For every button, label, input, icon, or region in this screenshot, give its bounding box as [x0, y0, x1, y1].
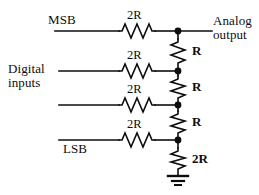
resistor-2r-lsb [119, 133, 155, 147]
resistor-2r-ground-leg [171, 148, 185, 176]
resistor-2r-bit2 [119, 64, 155, 78]
series-resistor-label-bit3: 2R [127, 83, 142, 97]
lsb-label: LSB [63, 142, 87, 156]
node-dot-4 [175, 137, 182, 144]
ladder-resistor-label-3: R [192, 115, 202, 129]
series-resistor-label-bit2: 2R [127, 49, 142, 63]
msb-label: MSB [48, 13, 76, 27]
series-resistor-label-lsb: 2R [127, 118, 142, 132]
series-resistor-label-msb: 2R [127, 9, 142, 23]
digital-inputs-label-line2: inputs [8, 76, 40, 90]
node-dot-1 [175, 28, 182, 35]
digital-inputs-label-line1: Digital [8, 62, 45, 76]
resistor-2r-msb [119, 24, 155, 38]
resistor-r-node2-node3 [171, 76, 185, 105]
resistor-r-node3-node4 [171, 111, 185, 140]
ladder-resistor-label-2: R [192, 80, 202, 94]
node-dot-2 [175, 68, 182, 75]
resistor-r-node1-node2 [171, 39, 185, 71]
ladder-resistor-label-1: R [192, 44, 202, 58]
resistor-2r-bit3 [119, 98, 155, 112]
analog-output-label-line1: Analog [213, 14, 252, 28]
analog-output-label-line2: output [213, 28, 247, 42]
ladder-resistor-label-4: 2R [192, 152, 208, 166]
node-dot-3 [175, 102, 182, 109]
r2r-ladder-dac-diagram: MSB LSB Digital inputs Analog output 2R … [0, 0, 259, 195]
